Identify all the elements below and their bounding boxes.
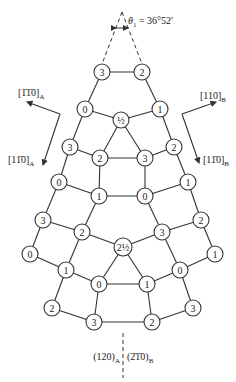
lattice-node: 2 — [92, 150, 108, 166]
lattice-node: 0 — [137, 188, 153, 204]
direction-label-right-upper: [110]B — [200, 90, 226, 104]
lattice-node: 0 — [77, 101, 93, 117]
lattice-node: 3 — [86, 314, 102, 330]
lattice-node: 2 — [193, 212, 209, 228]
lattice-node: 3 — [62, 139, 78, 155]
direction-arrows-left — [27, 102, 60, 165]
lattice-node: 0 — [91, 276, 107, 292]
direction-label-right-lower: [11̄0]B — [203, 154, 229, 168]
svg-text:0: 0 — [178, 265, 183, 276]
lattice-node: 0 — [172, 262, 188, 278]
lattice-diagram: θ1 = 36°52′ [1̄1̄0]A [11̄0]A [110]B [11̄… — [0, 0, 236, 382]
boundary-label-right: (2̄1̄0)B — [127, 351, 154, 365]
lattice-node: 3 — [185, 300, 201, 316]
svg-text:1: 1 — [64, 265, 69, 276]
lattice-edges — [30, 72, 215, 322]
svg-text:½: ½ — [117, 115, 125, 126]
svg-text:2: 2 — [50, 303, 55, 314]
direction-label-left-upper: [1̄1̄0]A — [18, 87, 44, 101]
svg-text:3: 3 — [143, 153, 148, 164]
svg-text:2: 2 — [199, 215, 204, 226]
svg-text:0: 0 — [28, 249, 33, 260]
lattice-node: 2 — [166, 139, 182, 155]
lattice-node: 0 — [51, 174, 67, 190]
svg-text:0: 0 — [57, 177, 62, 188]
svg-text:1: 1 — [145, 279, 150, 290]
svg-text:3: 3 — [191, 303, 196, 314]
lattice-node: 3 — [94, 64, 110, 80]
lattice-node: 0 — [22, 246, 38, 262]
angle-label: θ1 = 36°52′ — [128, 15, 173, 29]
lattice-node: 2 — [74, 224, 90, 240]
svg-text:3: 3 — [100, 67, 105, 78]
direction-label-left-lower: [11̄0]A — [8, 154, 34, 168]
lattice-node: 1 — [58, 262, 74, 278]
lattice-node: ½ — [113, 112, 129, 128]
svg-text:2: 2 — [98, 153, 103, 164]
lattice-node: 2 — [44, 300, 60, 316]
svg-text:3: 3 — [68, 142, 73, 153]
lattice-node: 1 — [152, 101, 168, 117]
svg-text:2: 2 — [140, 67, 145, 78]
svg-text:0: 0 — [143, 191, 148, 202]
lattice-node: 2 — [134, 64, 150, 80]
boundary-label-left: (120)A — [93, 351, 120, 365]
svg-text:2: 2 — [80, 227, 85, 238]
lattice-node: 1 — [91, 188, 107, 204]
svg-text:1: 1 — [186, 177, 191, 188]
lattice-node: 3 — [154, 224, 170, 240]
svg-text:2½: 2½ — [117, 242, 130, 253]
svg-text:3: 3 — [41, 215, 46, 226]
svg-text:2: 2 — [150, 317, 155, 328]
svg-text:1: 1 — [158, 104, 163, 115]
lattice-node: 1 — [180, 174, 196, 190]
lattice-node: 2 — [144, 314, 160, 330]
svg-text:0: 0 — [97, 279, 102, 290]
lattice-node: 1 — [139, 276, 155, 292]
lattice-node: 2½ — [114, 238, 132, 256]
svg-text:3: 3 — [160, 227, 165, 238]
svg-text:0: 0 — [83, 104, 88, 115]
lattice-node: 3 — [137, 150, 153, 166]
svg-text:1: 1 — [213, 249, 218, 260]
svg-text:2: 2 — [172, 142, 177, 153]
svg-text:1: 1 — [97, 191, 102, 202]
lattice-node: 3 — [35, 212, 51, 228]
svg-text:3: 3 — [92, 317, 97, 328]
lattice-node: 1 — [207, 246, 223, 262]
